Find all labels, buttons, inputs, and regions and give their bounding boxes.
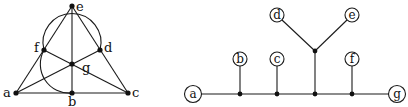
label-c: c	[132, 85, 139, 100]
label-f: f	[34, 40, 40, 55]
junction-b	[238, 92, 243, 97]
junction-de	[313, 49, 318, 54]
junction-fork	[313, 92, 318, 97]
label-e: e	[76, 0, 84, 14]
tree-label-d: d	[273, 8, 281, 22]
tree-label-a: a	[189, 87, 196, 101]
label-b: b	[68, 94, 76, 107]
label-d: d	[104, 40, 112, 55]
point-g	[69, 61, 74, 66]
point-f	[41, 47, 46, 52]
point-a	[13, 90, 18, 95]
tree-label-e: e	[348, 8, 355, 22]
junction-f	[350, 92, 355, 97]
edge-e	[315, 20, 347, 51]
point-c	[125, 90, 130, 95]
tree-edges	[201, 20, 389, 94]
tree-label-g: g	[393, 87, 401, 101]
junction-c	[275, 92, 280, 97]
point-d	[97, 47, 102, 52]
label-a: a	[3, 85, 11, 100]
point-e	[69, 3, 74, 8]
tree-label-b: b	[236, 52, 244, 66]
tree-junctions	[238, 49, 355, 97]
label-g: g	[82, 60, 90, 75]
tree-labels: a b c d e f g	[189, 8, 401, 101]
tree-nodes	[185, 8, 406, 103]
diagram-canvas: a b c d e f g a b c d e f	[0, 0, 408, 107]
tree-label-c: c	[274, 52, 281, 66]
edge-d	[282, 20, 315, 51]
